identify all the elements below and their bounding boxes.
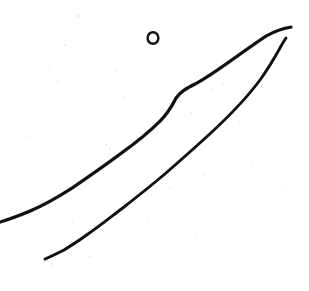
lower-long-stroke [45,38,286,259]
stroke-group [0,27,292,260]
ink-strokes-layer [0,0,309,291]
upper-long-stroke-edge [1,28,292,223]
lower-long-stroke-edge [44,39,285,260]
small-open-ring [148,32,159,44]
ink-drawing-canvas: Scanned hand-drawn ink sketch: two nearl… [0,0,309,291]
upper-long-stroke [0,27,291,222]
ring-group [148,32,159,44]
